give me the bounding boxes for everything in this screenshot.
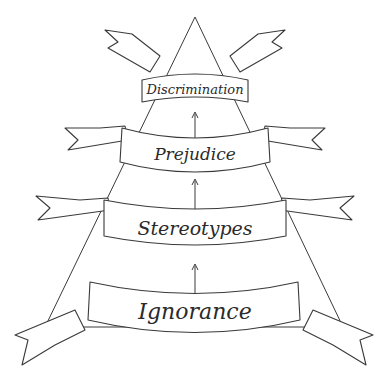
pyramid-graphic	[0, 0, 388, 388]
level-label-ignorance: Ignorance	[138, 299, 251, 324]
level-label-prejudice: Prejudice	[154, 144, 236, 164]
level-label-stereotypes: Stereotypes	[137, 217, 252, 239]
level-label-discrimination: Discrimination	[146, 82, 243, 97]
pyramid-diagram: Discrimination Prejudice Stereotypes Ign…	[0, 0, 388, 388]
ribbon-ignorance	[15, 282, 373, 365]
